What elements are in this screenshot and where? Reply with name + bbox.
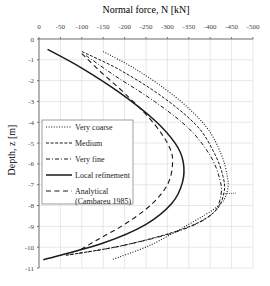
legend-label: Very fine xyxy=(75,155,105,164)
legend-label: Very coarse xyxy=(75,123,113,132)
y-tick-labels: 0-1-2-3-4-5-6-7-8-9-10-11 xyxy=(25,36,35,273)
x-axis-title: Normal force, N [kN] xyxy=(102,4,189,15)
y-tick-label: 0 xyxy=(31,36,35,44)
legend-label: Medium xyxy=(75,139,103,148)
y-tick-label: -9 xyxy=(28,223,34,231)
y-tick-label: -10 xyxy=(25,244,35,252)
y-tick-label: -3 xyxy=(28,98,34,106)
y-tick-label: -4 xyxy=(28,119,34,127)
y-tick-label: -7 xyxy=(28,181,34,189)
x-tick-label: -450 xyxy=(225,23,238,31)
x-tick-label: -200 xyxy=(118,23,131,31)
legend-label: Local refinement xyxy=(75,171,131,180)
legend-label: Analytical xyxy=(75,187,109,196)
x-tick-label: 0 xyxy=(37,23,41,31)
y-axis-title: Depth, z [m] xyxy=(6,125,17,176)
x-tick-label: -100 xyxy=(75,23,88,31)
x-tick-label: -350 xyxy=(182,23,195,31)
legend-label-sub: (Cambareu 1985) xyxy=(75,197,132,206)
y-tick-label: -11 xyxy=(25,265,35,273)
y-tick-label: -1 xyxy=(28,56,34,64)
x-tick-label: -250 xyxy=(140,23,153,31)
y-tick-label: -8 xyxy=(28,202,34,210)
y-tick-label: -2 xyxy=(28,77,34,85)
legend: Very coarseMediumVery fineLocal refineme… xyxy=(42,120,133,206)
y-tick-label: -6 xyxy=(28,160,34,168)
x-tick-label: -150 xyxy=(97,23,110,31)
x-tick-label: -500 xyxy=(247,23,260,31)
x-tick-label: -300 xyxy=(161,23,174,31)
y-tick-label: -5 xyxy=(28,140,34,148)
x-tick-label: -400 xyxy=(204,23,217,31)
chart: Normal force, N [kN] 0-50-100-150-200-25… xyxy=(0,0,270,286)
x-tick-labels: 0-50-100-150-200-250-300-350-400-450-500 xyxy=(37,23,260,31)
x-tick-label: -50 xyxy=(56,23,66,31)
